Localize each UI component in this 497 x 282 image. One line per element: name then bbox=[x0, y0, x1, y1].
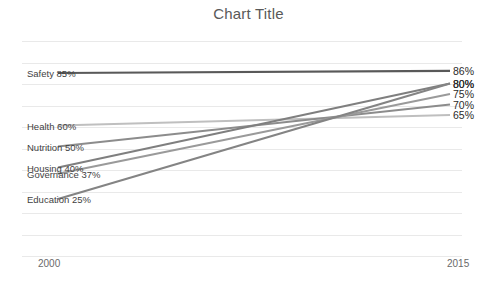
series-start-label-safety: Safety 85% bbox=[27, 68, 76, 79]
series-end-label-education: 80% bbox=[453, 78, 474, 90]
series-start-label-governance: Governance 37% bbox=[27, 168, 100, 179]
series-start-label-education: Education 25% bbox=[27, 194, 91, 205]
x-axis-tick-2015: 2015 bbox=[447, 258, 469, 269]
series-line-housing bbox=[58, 84, 450, 168]
series-start-label-nutrition: Nutrition 50% bbox=[27, 141, 84, 152]
series-line-safety bbox=[58, 71, 450, 73]
series-line-health bbox=[58, 115, 450, 126]
series-end-label-governance: 75% bbox=[453, 88, 474, 100]
series-start-label-health: Health 60% bbox=[27, 120, 76, 131]
x-axis-tick-2000: 2000 bbox=[38, 258, 60, 269]
series-line-education bbox=[58, 84, 450, 200]
series-end-label-health: 65% bbox=[453, 109, 474, 121]
chart-container: Chart Title Safety 85%Health 60%Nutritio… bbox=[0, 0, 497, 282]
series-line-governance bbox=[58, 94, 450, 174]
series-end-label-safety: 86% bbox=[453, 65, 474, 77]
plot-area: Safety 85%Health 60%Nutrition 50%Housing… bbox=[0, 0, 497, 282]
series-end-label-nutrition: 70% bbox=[453, 99, 474, 111]
